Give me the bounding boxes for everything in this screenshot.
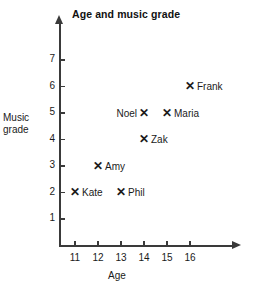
y-tick-mark-4 — [60, 139, 65, 140]
y-axis-line — [59, 22, 61, 246]
x-tick-label-15: 15 — [157, 252, 177, 263]
y-tick-mark-3 — [60, 165, 65, 166]
chart-title: Age and music grade — [72, 8, 252, 20]
x-tick-mark-14 — [143, 241, 144, 246]
x-axis-title: Age — [108, 270, 168, 281]
cross-marker-icon: ✕ — [93, 160, 104, 173]
cross-marker-icon: ✕ — [139, 107, 150, 120]
x-tick-mark-13 — [120, 241, 121, 246]
data-point-label: Frank — [197, 80, 223, 93]
cross-marker-icon: ✕ — [116, 186, 127, 199]
y-tick-label-5: 5 — [40, 106, 55, 117]
data-point-label: Phil — [128, 186, 145, 199]
y-tick-mark-1 — [60, 218, 65, 219]
x-tick-label-12: 12 — [88, 252, 108, 263]
x-tick-mark-12 — [97, 241, 98, 246]
x-tick-mark-11 — [74, 241, 75, 246]
cross-marker-icon: ✕ — [162, 107, 173, 120]
y-tick-label-2: 2 — [40, 186, 55, 197]
data-point-label: Amy — [105, 160, 125, 173]
cross-marker-icon: ✕ — [185, 80, 196, 93]
y-tick-label-4: 4 — [40, 133, 55, 144]
y-tick-label-6: 6 — [40, 80, 55, 91]
y-axis-arrow — [55, 15, 63, 24]
data-point-label: Noel — [116, 107, 137, 120]
y-tick-mark-2 — [60, 192, 65, 193]
x-tick-mark-15 — [166, 241, 167, 246]
y-tick-mark-7 — [60, 59, 65, 60]
data-point-label: Kate — [82, 186, 103, 199]
y-tick-label-3: 3 — [40, 159, 55, 170]
x-axis-line — [59, 245, 234, 247]
x-axis-arrow — [232, 241, 241, 249]
x-tick-label-11: 11 — [65, 252, 85, 263]
cross-marker-icon: ✕ — [70, 186, 81, 199]
data-point-label: Maria — [174, 107, 199, 120]
scatter-chart: Age and music grade Music grade Age 1234… — [0, 0, 261, 290]
x-tick-label-16: 16 — [180, 252, 200, 263]
data-point-label: Zak — [151, 133, 168, 146]
y-tick-label-1: 1 — [40, 212, 55, 223]
cross-marker-icon: ✕ — [139, 133, 150, 146]
y-tick-mark-6 — [60, 86, 65, 87]
x-tick-label-14: 14 — [134, 252, 154, 263]
y-tick-label-7: 7 — [40, 53, 55, 64]
x-tick-mark-16 — [189, 241, 190, 246]
x-tick-label-13: 13 — [111, 252, 131, 263]
y-tick-mark-5 — [60, 112, 65, 113]
